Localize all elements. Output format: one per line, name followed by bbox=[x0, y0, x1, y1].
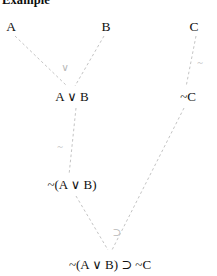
tree-edge-a-aorb bbox=[15, 36, 67, 86]
derivation-tree-figure: Example ABCA ∨ B~C~(A ∨ B)~(A ∨ B) ⊃ ~C … bbox=[0, 0, 217, 276]
connective-label-not-c-label: ~ bbox=[197, 57, 203, 68]
tree-edge-b-aorb bbox=[75, 36, 104, 86]
tree-node-b: B bbox=[101, 20, 110, 34]
tree-node-notaorb: ~(A ∨ B) bbox=[47, 178, 96, 192]
connective-label-implies-label: ⊃ bbox=[113, 227, 122, 238]
tree-edge-aorb-notaorb bbox=[69, 108, 76, 175]
connective-label-not-aorb-label: ~ bbox=[57, 141, 63, 152]
connective-label-or-label: ∨ bbox=[61, 62, 69, 73]
tree-edge-c-notc bbox=[186, 36, 196, 87]
tree-edge-notaorb-conclusion bbox=[76, 196, 108, 250]
tree-edge-notc-conclusion bbox=[112, 108, 184, 250]
figure-title: Example bbox=[2, 0, 50, 7]
tree-node-conclusion: ~(A ∨ B) ⊃ ~C bbox=[69, 258, 151, 272]
tree-node-notc: ~C bbox=[180, 90, 196, 104]
tree-node-a: A bbox=[6, 20, 16, 34]
tree-node-aorb: A ∨ B bbox=[55, 90, 88, 104]
edge-layer bbox=[0, 0, 217, 276]
tree-node-c: C bbox=[189, 20, 198, 34]
